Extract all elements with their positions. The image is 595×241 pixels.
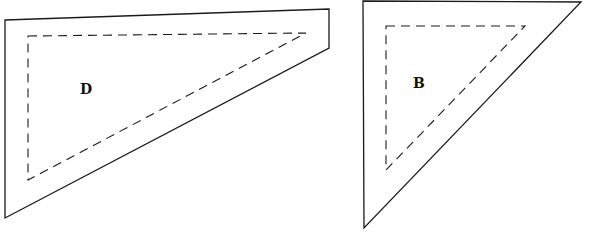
shape-b-outer-outline bbox=[363, 1, 581, 228]
shape-d-label: D bbox=[80, 81, 92, 97]
shape-b: B bbox=[363, 1, 581, 228]
shape-d-outer-outline bbox=[5, 9, 329, 218]
shape-d: D bbox=[5, 9, 329, 218]
diagram-canvas: D B bbox=[0, 0, 595, 241]
shape-b-label: B bbox=[413, 75, 425, 91]
